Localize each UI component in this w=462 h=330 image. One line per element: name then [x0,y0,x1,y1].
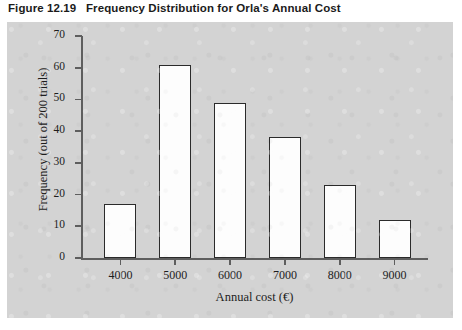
y-axis-tick [75,194,82,196]
y-axis-tick [75,162,82,164]
x-axis-tick [174,258,176,265]
chart-panel: 010203040506070 400050006000700080009000… [7,22,453,318]
y-axis-tick [75,225,82,227]
x-axis-line [81,258,428,260]
x-axis-tick [394,258,396,265]
bar-8000 [324,185,356,258]
figure-title: Frequency Distribution for Orla's Annual… [86,2,341,14]
x-axis-tick [284,258,286,265]
x-axis-title: Annual cost (€) [81,290,428,305]
x-axis-tick-label: 4000 [90,268,150,283]
x-axis-tick [229,258,231,265]
x-axis-tick-label: 8000 [310,268,370,283]
plot-area: 010203040506070 400050006000700080009000… [7,22,453,318]
bar-4000 [104,204,136,258]
x-axis-tick [120,258,122,265]
x-axis-tick-label: 5000 [145,268,205,283]
y-axis-tick [75,257,82,259]
x-axis-tick-label: 6000 [200,268,260,283]
bar-6000 [214,103,246,258]
y-axis-tick-label: 0 [25,250,65,262]
y-axis-title: Frequency (out of 200 trials) [36,30,51,250]
y-axis-tick [75,35,82,37]
y-axis-tick [75,67,82,69]
y-axis-tick [75,130,82,132]
figure-header: Figure 12.19 Frequency Distribution for … [0,0,462,22]
x-axis-tick-label: 7000 [255,268,315,283]
x-axis-tick-label: 9000 [365,268,425,283]
y-axis-tick [75,99,82,101]
bar-5000 [159,65,191,258]
figure-number: Figure 12.19 [8,2,76,14]
bar-9000 [379,220,411,258]
x-axis-tick [339,258,341,265]
bar-7000 [269,137,301,258]
